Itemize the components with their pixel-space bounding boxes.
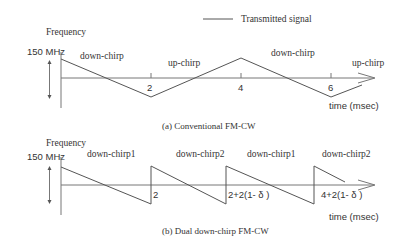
panel-b-bandwidth-arrow-icon xyxy=(48,166,52,204)
panel-a-bandwidth-label: 150 MHz xyxy=(27,46,65,57)
panel-b-label-down-chirp2-2: down-chirp2 xyxy=(322,149,371,159)
panel-b-label-down-chirp2-1: down-chirp2 xyxy=(176,149,225,159)
panel-a-conventional-fmcw: Frequency 150 MHz 2 4 6 down-chirp up-ch… xyxy=(27,27,384,131)
panel-b-label-down-chirp1-1: down-chirp1 xyxy=(87,149,136,159)
panel-a-label-up-chirp-1: up-chirp xyxy=(168,58,200,68)
panel-b-tick-label-4-plus: 4+2(1- δ ) xyxy=(321,189,362,200)
panel-b-tick-label-2: 2 xyxy=(153,189,158,200)
panel-b-bandwidth-label: 150 MHz xyxy=(27,151,65,162)
panel-a-label-up-chirp-2: up-chirp xyxy=(352,58,384,68)
legend-label: Transmitted signal xyxy=(241,14,312,24)
panel-b-label-down-chirp1-2: down-chirp1 xyxy=(247,149,296,159)
panel-a-time-axis-label: time (msec) xyxy=(329,100,379,111)
panel-b-dual-down-chirp-fmcw: Frequency 150 MHz 2 2+2(1- δ ) 4+2(1- δ … xyxy=(27,138,379,236)
panel-a-tick-label-2: 2 xyxy=(147,82,152,93)
panel-a-tick-label-4: 4 xyxy=(238,82,243,93)
panel-b-tick-label-2-plus: 2+2(1- δ ) xyxy=(228,189,269,200)
panel-a-label-down-chirp-2: down-chirp xyxy=(271,48,315,58)
panel-a-bandwidth-arrow-icon xyxy=(48,60,52,99)
panel-a-label-down-chirp-1: down-chirp xyxy=(80,51,124,61)
panel-a-caption: (a) Conventional FM-CW xyxy=(162,121,256,131)
panel-a-y-axis-label: Frequency xyxy=(46,27,86,37)
fmcw-diagram: Transmitted signal Frequency 150 MHz 2 4… xyxy=(0,0,404,249)
panel-b-y-axis-label: Frequency xyxy=(46,138,86,148)
panel-b-caption: (b) Dual down-chirp FM-CW xyxy=(162,226,269,236)
panel-a-tick-label-6: 6 xyxy=(328,82,333,93)
legend: Transmitted signal xyxy=(203,14,312,24)
panel-b-time-axis-label: time (msec) xyxy=(329,211,379,222)
